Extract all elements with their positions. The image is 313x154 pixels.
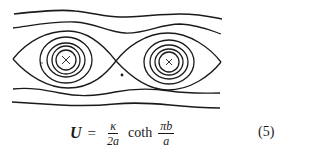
left-vortex-center-icon xyxy=(62,56,70,64)
streamline-top-inner xyxy=(13,22,221,34)
speck-dot xyxy=(41,62,42,63)
fraction-pib-over-a: πb a xyxy=(158,120,174,147)
equation-lhs: U xyxy=(70,124,82,142)
coth-function: coth xyxy=(128,125,152,141)
fraction-numerator: κ xyxy=(108,120,118,134)
streamline-bottom-outer xyxy=(12,102,220,108)
fraction-kappa-over-2a: κ 2a xyxy=(105,120,121,147)
vortex-streamline-figure xyxy=(0,0,313,115)
fraction-numerator: πb xyxy=(158,120,174,134)
streamline-bottom-inner xyxy=(13,88,220,95)
stagnation-dot xyxy=(121,74,124,77)
equation: U = κ 2a coth πb a xyxy=(70,116,177,150)
fraction-denominator: 2a xyxy=(105,134,121,147)
right-vortex-center-icon xyxy=(166,59,172,65)
separatrix-right-upper xyxy=(116,33,221,62)
fraction-denominator: a xyxy=(161,134,171,147)
equation-number: (5) xyxy=(258,124,274,140)
streamline-top-outer xyxy=(14,10,222,19)
equals-sign: = xyxy=(88,125,96,142)
